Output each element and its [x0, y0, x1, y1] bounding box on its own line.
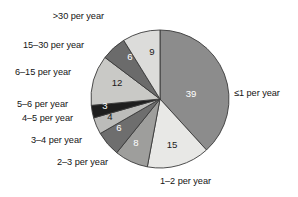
pie-slice-value-label: 6 — [127, 51, 132, 62]
pie-slice-value-label: 15 — [167, 139, 178, 150]
category-label-3-4: 3–4 per year — [31, 135, 82, 146]
pie-slice-value-label: 4 — [107, 111, 113, 122]
category-label-6-15: 6–15 per year — [15, 67, 71, 78]
category-label-2-3: 2–3 per year — [57, 157, 108, 168]
pie-slice-value-label: 8 — [133, 137, 138, 148]
pie-slice-value-label: 39 — [186, 88, 197, 99]
pie-slices-group — [91, 30, 229, 168]
category-label-1-2: 1–2 per year — [160, 176, 211, 187]
category-label-4-5: 4–5 per year — [22, 113, 73, 124]
category-label-5-6: 5–6 per year — [17, 99, 68, 110]
pie-chart-figure: 391586431269 >30 per year 15–30 per year… — [0, 0, 298, 197]
category-label-15-30: 15–30 per year — [23, 40, 84, 51]
category-label-le1: ≤1 per year — [234, 88, 280, 99]
pie-slice-value-label: 12 — [112, 77, 123, 88]
pie-slice-value-label: 3 — [102, 100, 107, 111]
pie-slice-value-label: 9 — [149, 46, 154, 57]
category-label-gt30: >30 per year — [53, 11, 104, 22]
pie-slice-value-label: 6 — [116, 122, 121, 133]
